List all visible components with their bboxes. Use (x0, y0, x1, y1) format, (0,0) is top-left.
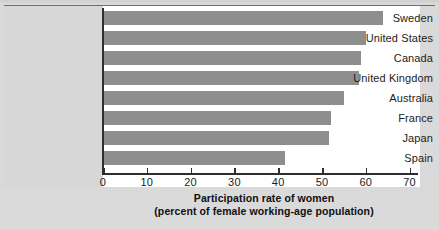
category-label: Sweden (340, 12, 439, 24)
category-label: United States (340, 32, 439, 44)
x-tick-label: 40 (272, 176, 285, 188)
category-label: France (340, 112, 439, 124)
x-tick-label: 60 (359, 176, 372, 188)
bar (103, 71, 359, 85)
x-axis-title-line1: Participation rate of women (194, 192, 334, 204)
x-axis-title: Participation rate of women (percent of … (103, 192, 425, 218)
bar (103, 131, 329, 145)
category-label: United Kingdom (340, 72, 439, 84)
chart-figure: SwedenUnited StatesCanadaUnited KingdomA… (0, 0, 439, 230)
bar (103, 31, 366, 45)
bar (103, 151, 285, 165)
x-axis-line (102, 173, 418, 175)
bar (103, 51, 361, 65)
bar (103, 111, 331, 125)
category-label: Australia (340, 92, 439, 104)
x-tick-label: 10 (140, 176, 153, 188)
category-label: Canada (340, 52, 439, 64)
x-tick-label: 0 (100, 176, 106, 188)
x-tick-label: 20 (184, 176, 197, 188)
x-axis-title-line2: (percent of female working-age populatio… (103, 205, 425, 218)
category-label: Spain (340, 152, 439, 164)
x-tick-label: 30 (228, 176, 241, 188)
category-label-panel (4, 6, 103, 187)
y-axis-line (102, 8, 104, 174)
x-tick-label: 70 (403, 176, 416, 188)
bar (103, 91, 344, 105)
x-tick-label: 50 (316, 176, 329, 188)
category-label: Japan (340, 132, 439, 144)
